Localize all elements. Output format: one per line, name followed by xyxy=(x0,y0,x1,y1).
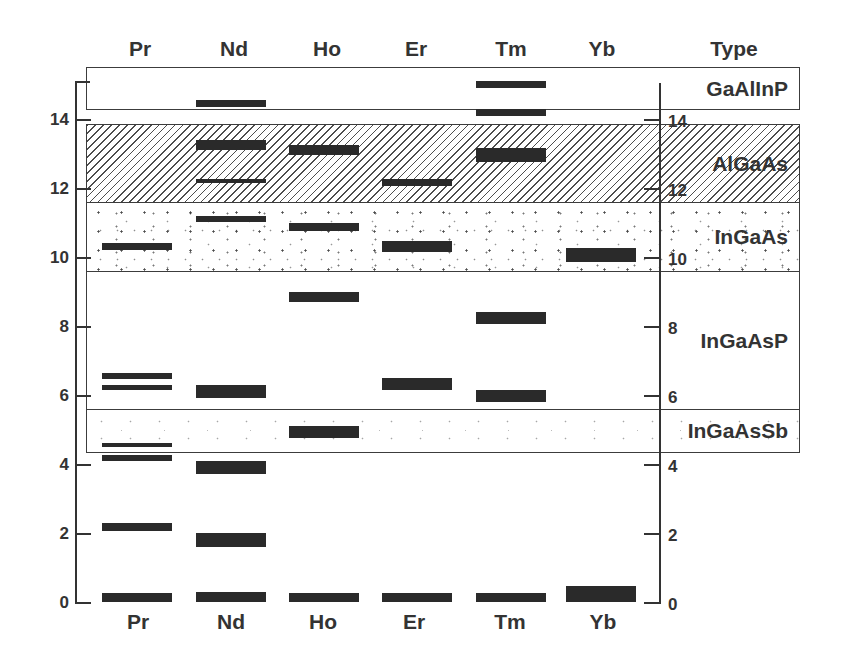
energy-level-bar xyxy=(476,593,546,602)
energy-level-bar xyxy=(196,179,266,182)
energy-level-bar xyxy=(289,292,359,302)
region-label: InGaAs xyxy=(714,225,788,249)
left-axis-top-cap xyxy=(75,81,90,83)
energy-level-bar xyxy=(102,243,172,250)
right-tick xyxy=(644,257,660,259)
right-tick-label: 4 xyxy=(668,457,677,477)
energy-level-bar xyxy=(289,593,359,602)
right-tick-label: 10 xyxy=(668,250,687,270)
right-tick xyxy=(644,464,660,466)
right-tick-label: 14 xyxy=(668,112,687,132)
right-tick xyxy=(644,188,660,190)
right-tick xyxy=(644,533,660,535)
right-tick xyxy=(644,119,660,121)
x-axis-label-ho: Ho xyxy=(309,610,337,634)
region-label: InGaAsSb xyxy=(688,419,788,443)
right-y-axis xyxy=(659,83,661,604)
right-tick-label: 2 xyxy=(668,526,677,546)
left-tick-label: 14 xyxy=(29,110,69,130)
energy-level-bar xyxy=(196,533,266,547)
left-tick xyxy=(75,395,91,397)
energy-level-bar xyxy=(382,179,452,186)
energy-level-bar xyxy=(102,385,172,390)
region-label: AlGaAs xyxy=(712,152,788,176)
left-tick-label: 0 xyxy=(29,593,69,613)
energy-level-bar xyxy=(289,145,359,155)
right-tick xyxy=(644,326,660,328)
energy-level-bar xyxy=(196,100,266,107)
right-tick xyxy=(644,395,660,397)
left-tick-label: 2 xyxy=(29,524,69,544)
left-tick-label: 8 xyxy=(29,317,69,337)
energy-level-bar xyxy=(102,443,172,446)
right-tick-label: 8 xyxy=(668,319,677,339)
region-ingaas: InGaAs xyxy=(86,202,800,273)
left-tick-label: 12 xyxy=(29,179,69,199)
left-tick xyxy=(75,326,91,328)
x-axis-label-yb: Yb xyxy=(590,610,617,634)
left-tick xyxy=(75,257,91,259)
right-tick xyxy=(644,602,660,604)
energy-level-bar xyxy=(196,216,266,223)
energy-level-bar xyxy=(382,593,452,602)
energy-level-bar xyxy=(196,385,266,399)
left-tick-label: 6 xyxy=(29,386,69,406)
x-axis-label-pr: Pr xyxy=(127,610,149,634)
left-tick xyxy=(75,533,91,535)
energy-level-bar xyxy=(476,390,546,402)
energy-level-bar xyxy=(566,248,636,262)
energy-level-chart: Pr Nd Ho Er Tm Yb Type GaAlInPAlGaAsInGa… xyxy=(0,0,844,665)
right-tick-label: 6 xyxy=(668,388,677,408)
energy-level-bar xyxy=(102,373,172,380)
region-label: GaAlInP xyxy=(706,77,788,101)
region-ingaassb: InGaAsSb xyxy=(86,409,800,454)
energy-level-bar xyxy=(566,586,636,602)
plot-area: GaAlInPAlGaAsInGaAsInGaAsPInGaAsSb002244… xyxy=(0,0,844,665)
energy-level-bar xyxy=(476,81,546,88)
energy-level-bar xyxy=(289,223,359,232)
right-tick-label: 12 xyxy=(668,181,687,201)
left-tick xyxy=(75,464,91,466)
right-tick-label: 0 xyxy=(668,595,677,615)
x-axis-label-nd: Nd xyxy=(217,610,245,634)
energy-level-bar xyxy=(102,523,172,532)
energy-level-bar xyxy=(476,109,546,116)
x-axis-label-tm: Tm xyxy=(494,610,526,634)
x-axis-label-er: Er xyxy=(403,610,425,634)
energy-level-bar xyxy=(476,148,546,162)
energy-level-bar xyxy=(102,593,172,602)
left-tick-label: 4 xyxy=(29,455,69,475)
left-tick xyxy=(75,188,91,190)
energy-level-bar xyxy=(196,592,266,602)
region-label: InGaAsP xyxy=(700,329,788,353)
left-tick xyxy=(75,602,91,604)
energy-level-bar xyxy=(289,426,359,438)
energy-level-bar xyxy=(196,461,266,475)
energy-level-bar xyxy=(382,241,452,251)
energy-level-bar xyxy=(196,140,266,150)
left-tick-label: 10 xyxy=(29,248,69,268)
region-gaalinp: GaAlInP xyxy=(86,67,800,110)
region-algaas: AlGaAs xyxy=(86,124,800,203)
energy-level-bar xyxy=(102,455,172,460)
energy-level-bar xyxy=(382,378,452,390)
left-y-axis xyxy=(75,81,77,604)
energy-level-bar xyxy=(476,312,546,324)
left-tick xyxy=(75,119,91,121)
